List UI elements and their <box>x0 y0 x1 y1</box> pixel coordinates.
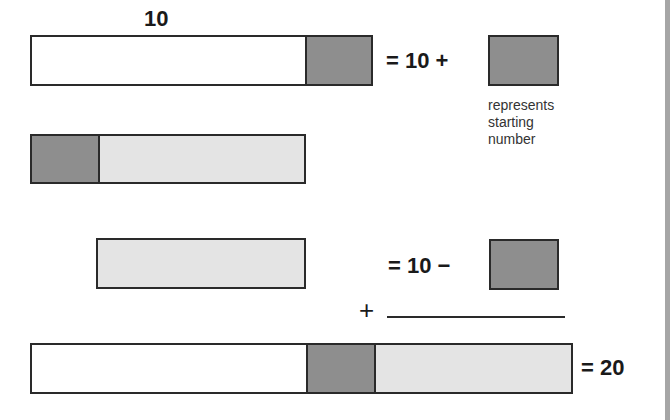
equation-row1: = 10 + <box>386 48 448 74</box>
legend-text: represents starting number <box>488 97 554 148</box>
page-edge-strip <box>665 0 670 420</box>
segment-starting-number <box>305 37 371 84</box>
bar-row2 <box>30 134 306 184</box>
equation-row4: = 20 <box>581 355 624 381</box>
starting-number-box <box>489 239 559 290</box>
legend-line-3: number <box>488 131 554 148</box>
bar-row3 <box>96 238 306 289</box>
bar-row1 <box>30 35 373 86</box>
legend-line-2: starting <box>488 114 554 131</box>
plus-sign: + <box>359 297 374 323</box>
segment-remainder <box>374 345 571 392</box>
segment-ten <box>32 37 305 84</box>
segment-remainder <box>98 240 304 287</box>
segment-starting-number <box>306 345 374 392</box>
sum-line <box>387 316 565 318</box>
segment-remainder <box>98 136 304 182</box>
legend-line-1: represents <box>488 97 554 114</box>
legend-box <box>488 35 559 86</box>
top-label-ten: 10 <box>144 6 168 32</box>
bar-row4 <box>30 343 573 394</box>
segment-ten <box>32 345 306 392</box>
equation-row3: = 10 − <box>388 253 450 279</box>
segment-starting-number <box>32 136 98 182</box>
